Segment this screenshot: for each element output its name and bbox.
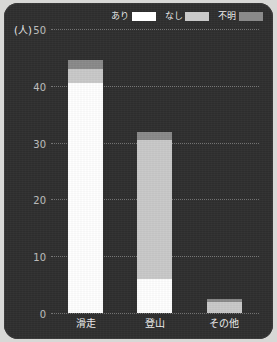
legend-item-ari: あり bbox=[111, 11, 156, 21]
stacked-bar-tozan bbox=[137, 132, 172, 314]
legend-item-fumei: 不明 bbox=[218, 11, 263, 21]
bar-group-sonota: その他 bbox=[190, 29, 259, 313]
legend-item-nashi: なし bbox=[165, 11, 210, 21]
y-tick-label-20: 20 bbox=[33, 195, 46, 206]
bar-segment-nashi-kasso bbox=[68, 69, 103, 83]
bar-segment-nashi-tozan bbox=[137, 140, 172, 279]
chart-legend: あり なし 不明 bbox=[111, 11, 263, 21]
stacked-bar-kasso bbox=[68, 60, 103, 313]
bar-segment-ari-tozan bbox=[137, 279, 172, 313]
bar-segment-fumei-tozan bbox=[137, 132, 172, 141]
chart-plot-area: 50 40 30 20 10 0 bbox=[51, 29, 259, 313]
bar-group-kasso: 滑走 bbox=[51, 29, 120, 313]
y-tick-label-30: 30 bbox=[33, 138, 46, 149]
chart-plot-panel: あり なし 不明 (人) 50 40 30 20 bbox=[4, 3, 273, 339]
bar-segment-nashi-sonota bbox=[207, 302, 242, 313]
bar-segment-ari-kasso bbox=[68, 83, 103, 313]
legend-swatch-fumei bbox=[239, 12, 263, 21]
y-tick-label-10: 10 bbox=[33, 252, 46, 263]
gridline-0: 0 bbox=[51, 313, 259, 314]
bar-group-tozan: 登山 bbox=[120, 29, 189, 313]
x-axis-label-kasso: 滑走 bbox=[76, 318, 96, 330]
legend-label-ari: あり bbox=[111, 11, 129, 21]
y-tick-label-50: 50 bbox=[33, 25, 46, 36]
bar-series-container: 滑走 登山 その他 bbox=[51, 29, 259, 313]
x-axis-label-sonota: その他 bbox=[209, 318, 239, 330]
chart-figure: あり なし 不明 (人) 50 40 30 20 bbox=[0, 0, 277, 342]
y-tick-label-40: 40 bbox=[33, 81, 46, 92]
legend-swatch-nashi bbox=[185, 12, 209, 21]
y-tick-label-0: 0 bbox=[40, 309, 46, 320]
y-axis-unit-label: (人) bbox=[14, 25, 32, 37]
bar-segment-fumei-kasso bbox=[68, 60, 103, 69]
legend-swatch-ari bbox=[132, 12, 156, 21]
legend-label-nashi: なし bbox=[165, 11, 183, 21]
stacked-bar-sonota bbox=[207, 299, 242, 313]
legend-label-fumei: 不明 bbox=[218, 11, 236, 21]
x-axis-label-tozan: 登山 bbox=[145, 318, 165, 330]
